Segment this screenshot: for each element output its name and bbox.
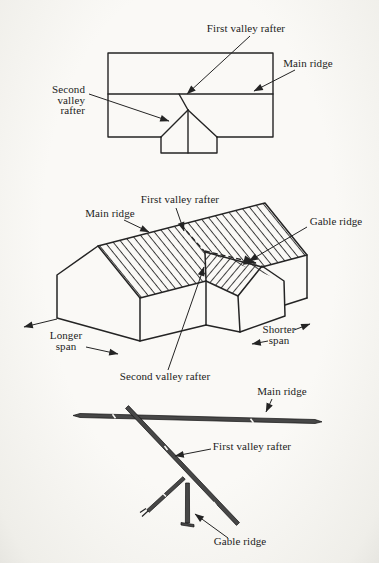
iso-label-main-ridge: Main ridge [85, 208, 135, 219]
gable-ridge-board [185, 483, 189, 523]
iso-label-longer-span-line1: Longer [50, 330, 82, 341]
plan-leader-first-valley-rafter [187, 36, 250, 94]
longer-span-arrow-left [24, 319, 57, 327]
plan-view-leaders [89, 36, 295, 121]
plan-extension-outline [161, 137, 217, 153]
main-ridge-board [73, 414, 322, 424]
iso-label-gable-ridge: Gable ridge [310, 216, 363, 227]
plan-label-second-valley-rafter-line3: rafter [33, 105, 85, 116]
plan-first-valley-rafter-line [179, 94, 188, 110]
roof-valley-rafter-figure: First valley rafter Main ridge Second va… [0, 0, 379, 563]
member-detail-grain-marks [113, 414, 254, 506]
plan-third-valley-line [188, 110, 217, 137]
gable-ridge-board-foot [181, 523, 194, 528]
iso-label-longer-span: Longer span [50, 330, 82, 351]
detail-label-main-ridge: Main ridge [257, 386, 307, 397]
detail-label-gable-ridge: Gable ridge [214, 536, 267, 547]
plan-label-main-ridge: Main ridge [283, 58, 333, 69]
iso-label-shorter-span-line2: span [262, 335, 295, 346]
front-wall-bottom-right [285, 298, 307, 305]
iso-label-second-valley-rafter: Second valley rafter [120, 371, 211, 382]
member-detail-drawing [73, 406, 322, 527]
front-wall-bottom-left [140, 325, 206, 341]
iso-label-longer-span-line2: span [50, 341, 82, 352]
detail-label-first-valley-rafter: First valley rafter [213, 441, 291, 452]
iso-label-shorter-span: Shorter span [262, 324, 295, 345]
plan-building-outline [108, 53, 273, 137]
plan-label-first-valley-rafter: First valley rafter [207, 23, 285, 34]
iso-label-first-valley-rafter: First valley rafter [141, 194, 219, 205]
plan-view-drawing [108, 53, 273, 153]
second-valley-and-corner-edge [205, 252, 206, 325]
shorter-span-arrow-right [294, 324, 310, 330]
iso-label-shorter-span-line1: Shorter [262, 324, 295, 335]
detail-leader-main-ridge [266, 399, 272, 412]
plan-label-second-valley-rafter-line1: Second [33, 84, 85, 95]
plan-second-valley-rafter-line [161, 110, 188, 137]
detail-leader-first-valley-rafter [175, 449, 211, 456]
first-valley-rafter-board [126, 406, 240, 526]
longer-span-arrow-right [86, 347, 118, 354]
plan-leader-second-valley-rafter [89, 94, 169, 121]
common-rafter-board [147, 477, 185, 513]
plan-label-second-valley-rafter: Second valley rafter [33, 84, 85, 116]
plan-leader-main-ridge [254, 70, 295, 91]
iso-leader-main-ridge [124, 220, 149, 232]
